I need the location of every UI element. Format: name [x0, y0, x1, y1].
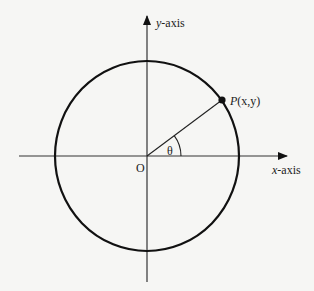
x-axis-label: x-axis	[271, 163, 301, 177]
angle-theta-label: θ	[167, 144, 173, 158]
y-axis-label: y-axis	[155, 16, 185, 30]
unit-circle-diagram: y-axis P(x,y) θ O x-axis	[0, 0, 314, 291]
point-p-marker	[218, 96, 225, 103]
angle-arc	[174, 136, 181, 156]
point-p-label: P(x,y)	[229, 94, 260, 108]
radius-line	[147, 100, 222, 156]
origin-label: O	[136, 161, 145, 175]
